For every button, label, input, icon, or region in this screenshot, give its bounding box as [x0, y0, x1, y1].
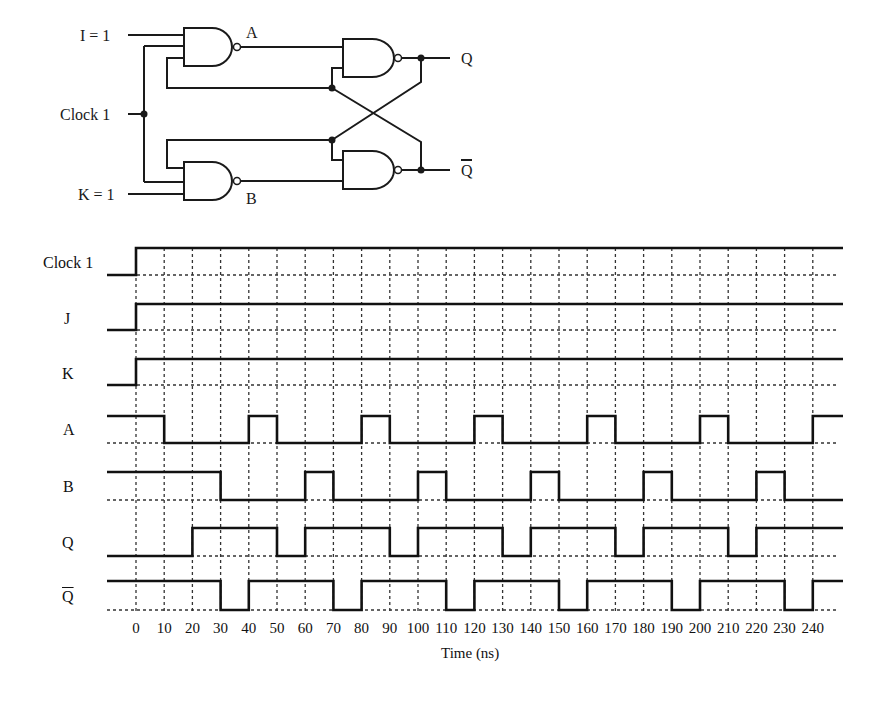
signal-label-qbar: Q — [62, 588, 74, 606]
waveform-q- — [107, 581, 843, 610]
waveform-a — [107, 416, 843, 443]
signal-label-q: Q — [62, 534, 74, 552]
signal-label-clock: Clock 1 — [43, 254, 93, 272]
signal-label-j: J — [64, 310, 70, 328]
x-axis-label: Time (ns) — [441, 645, 499, 662]
timing-diagram — [0, 0, 887, 702]
x-tick-label: 240 — [793, 620, 833, 637]
signal-label-k: K — [62, 365, 74, 383]
signal-label-b: B — [63, 478, 74, 496]
signal-label-a: A — [63, 421, 75, 439]
